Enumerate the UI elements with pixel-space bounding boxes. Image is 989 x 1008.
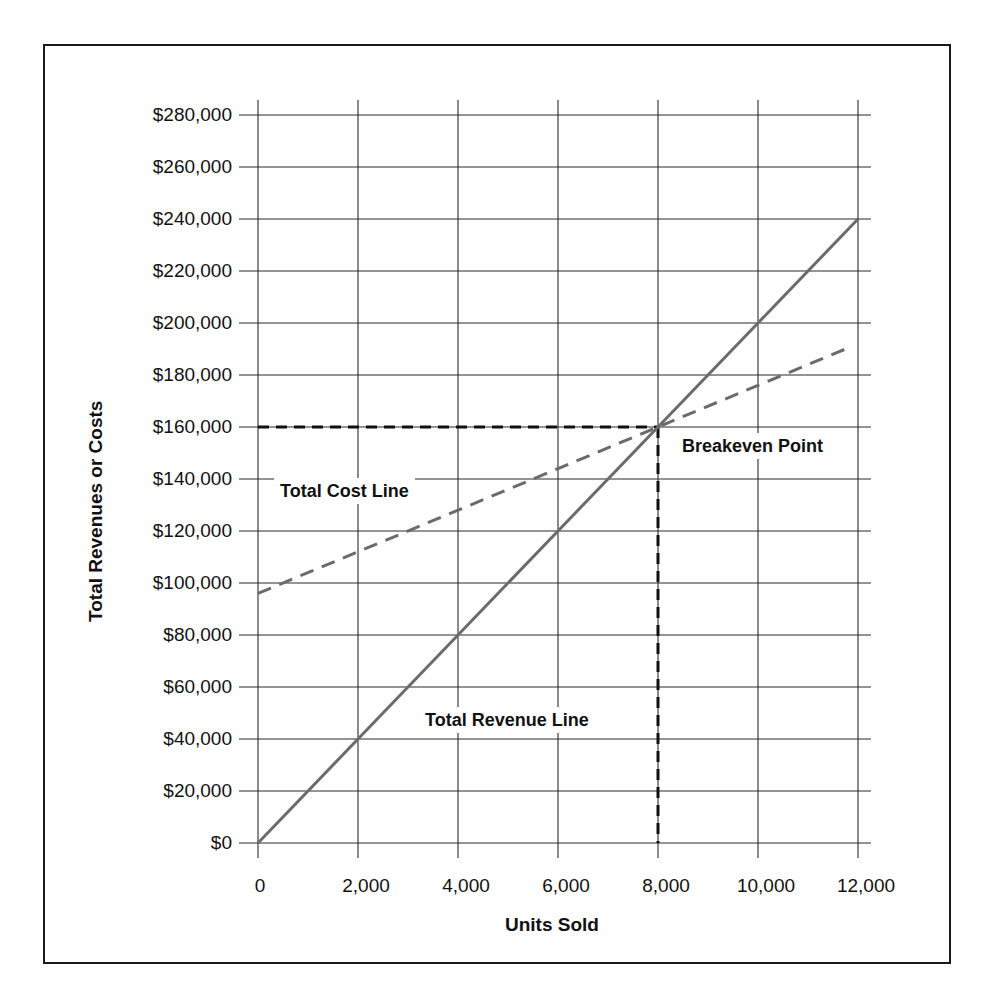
- y-tick-label: $60,000: [82, 676, 232, 698]
- y-tick-label: $0: [82, 832, 232, 854]
- x-axis-label: Units Sold: [505, 914, 599, 936]
- x-tick-label: 12,000: [816, 875, 916, 897]
- breakeven-point-label: Breakeven Point: [676, 433, 829, 459]
- y-tick-label: $40,000: [82, 728, 232, 750]
- plot-area: [0, 0, 989, 1008]
- x-tick-label: 0: [210, 875, 310, 897]
- y-tick-label: $200,000: [82, 312, 232, 334]
- y-tick-label: $220,000: [82, 260, 232, 282]
- y-tick-label: $180,000: [82, 364, 232, 386]
- x-tick-label: 8,000: [616, 875, 716, 897]
- x-tick-label: 6,000: [516, 875, 616, 897]
- x-tick-label: 10,000: [716, 875, 816, 897]
- total-revenue-line-label: Total Revenue Line: [419, 707, 595, 733]
- total-cost-line-label: Total Cost Line: [274, 478, 415, 504]
- x-tick-label: 4,000: [416, 875, 516, 897]
- y-tick-label: $80,000: [82, 624, 232, 646]
- y-tick-label: $280,000: [82, 104, 232, 126]
- y-tick-label: $20,000: [82, 780, 232, 802]
- x-tick-label: 2,000: [316, 875, 416, 897]
- y-tick-label: $260,000: [82, 156, 232, 178]
- total-cost-line: [258, 348, 848, 593]
- y-axis-label: Total Revenues or Costs: [85, 401, 107, 622]
- y-tick-label: $240,000: [82, 208, 232, 230]
